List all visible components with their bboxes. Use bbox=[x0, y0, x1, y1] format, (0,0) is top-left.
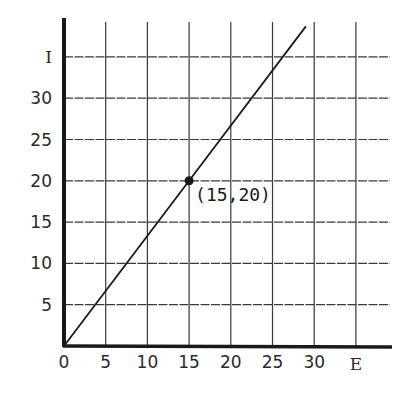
y-tick-label: 10 bbox=[30, 253, 52, 273]
y-axis-label: I bbox=[45, 47, 52, 67]
y-tick-label: 25 bbox=[30, 130, 52, 150]
x-axis-label: E bbox=[350, 354, 362, 374]
x-tick-label: 25 bbox=[262, 352, 284, 372]
x-tick-label: 15 bbox=[178, 352, 200, 372]
point-label: (15,20) bbox=[195, 184, 271, 205]
axes bbox=[63, 18, 392, 347]
x-axis bbox=[63, 346, 392, 347]
x-tick-label: 30 bbox=[303, 352, 325, 372]
chart: 05101520253051015202530 E I (15,20) bbox=[0, 0, 413, 399]
x-tick-label: 0 bbox=[59, 352, 70, 372]
x-tick-label: 5 bbox=[100, 352, 111, 372]
tick-labels: 05101520253051015202530 bbox=[30, 88, 325, 372]
x-tick-label: 10 bbox=[137, 352, 159, 372]
y-tick-label: 30 bbox=[30, 88, 52, 108]
y-tick-label: 20 bbox=[30, 171, 52, 191]
x-tick-label: 20 bbox=[220, 352, 242, 372]
data-point bbox=[185, 176, 194, 185]
y-tick-label: 5 bbox=[41, 295, 52, 315]
y-tick-label: 15 bbox=[30, 212, 52, 232]
